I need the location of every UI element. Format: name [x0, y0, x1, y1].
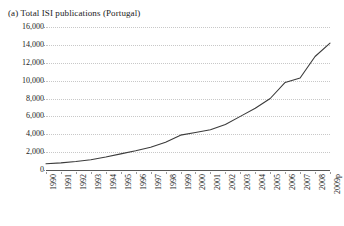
chart-figure: (a) Total ISI publications (Portugal) 16… [0, 0, 344, 226]
series-line-layer [0, 0, 344, 226]
series-line-total-isi-publications [46, 43, 330, 164]
